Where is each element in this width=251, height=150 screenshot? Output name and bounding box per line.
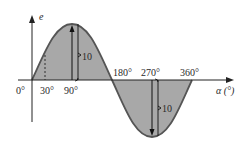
tick-label-30: 30° <box>40 85 54 96</box>
y-axis-label: e <box>39 11 44 22</box>
tick-label-360: 360° <box>180 67 199 78</box>
positive-amplitude-label: 10 <box>82 51 92 62</box>
tick-label-180: 180° <box>113 67 132 78</box>
tick-label-270: 270° <box>141 67 160 78</box>
negative-amplitude-label: 10 <box>162 103 172 114</box>
tick-label-0: 0° <box>16 85 25 96</box>
sine-wave-diagram: e 10 10 0° 30° 90° 180° 270° 360° α (°) <box>0 0 251 150</box>
tick-label-90: 90° <box>64 85 78 96</box>
x-axis-label: α (°) <box>216 85 235 97</box>
y-axis-arrow-icon <box>29 15 35 23</box>
x-axis-arrow-icon <box>226 77 234 83</box>
